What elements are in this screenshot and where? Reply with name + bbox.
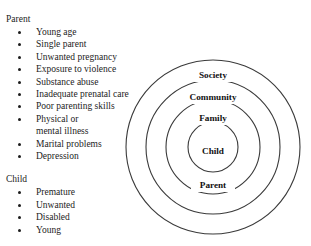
list-item: Inadequate prenatal care (6, 88, 156, 100)
risk-factor-lists: Parent Young age Single parent Unwanted … (6, 13, 156, 236)
ring-label-family: Family (199, 113, 227, 123)
list-item: Physical or mental illness (6, 113, 156, 138)
label-plate-child (195, 146, 231, 158)
list-item-label: Premature (36, 187, 75, 197)
risk-group-parent: Parent Young age Single parent Unwanted … (6, 13, 156, 162)
bullet-icon (18, 31, 21, 34)
bullet-icon (18, 68, 21, 71)
list-item: Unwanted pregnancy (6, 51, 156, 63)
list-item-label: Exposure to violence (36, 64, 116, 74)
group-heading-child: Child (6, 173, 156, 185)
ring-child (188, 122, 238, 172)
list-item-label: Unwanted pregnancy (36, 52, 117, 62)
risk-list-child: Premature Unwanted Disabled Young (6, 186, 156, 236)
label-plate-family (191, 113, 235, 125)
risk-list-parent: Young age Single parent Unwanted pregnan… (6, 26, 156, 162)
list-item-label: Unwanted (36, 200, 75, 210)
list-item: Premature (6, 186, 156, 198)
group-spacer (6, 162, 156, 173)
label-plate-society (190, 70, 236, 82)
label-plate-parent (191, 180, 235, 192)
bullet-icon (18, 56, 21, 59)
figure-canvas: Parent Young age Single parent Unwanted … (0, 0, 311, 246)
bullet-icon (18, 81, 21, 84)
bullet-icon (18, 43, 21, 46)
list-item: Marital problems (6, 138, 156, 150)
list-item-label: Physical or mental illness (36, 114, 89, 136)
bullet-icon (18, 155, 21, 158)
bullet-icon (18, 105, 21, 108)
list-item-label: Disabled (36, 212, 70, 222)
list-item: Young age (6, 26, 156, 38)
ring-label-child: Child (202, 146, 224, 156)
ring-family (166, 100, 260, 194)
list-item-label: Depression (36, 151, 79, 161)
bullet-icon (18, 118, 21, 121)
list-item: Unwanted (6, 199, 156, 211)
bullet-icon (18, 216, 21, 219)
list-item-label: Inadequate prenatal care (36, 89, 129, 99)
bullet-icon (18, 229, 21, 232)
list-item-label: Substance abuse (36, 77, 99, 87)
bullet-icon (18, 143, 21, 146)
ring-label-community: Community (190, 92, 237, 102)
list-item: Young (6, 224, 156, 236)
list-item-label: Single parent (36, 39, 86, 49)
list-item: Disabled (6, 211, 156, 223)
bullet-icon (18, 93, 21, 96)
list-item: Poor parenting skills (6, 100, 156, 112)
list-item: Depression (6, 150, 156, 162)
bullet-icon (18, 204, 21, 207)
list-item-label: Marital problems (36, 139, 102, 149)
ring-label-parent: Parent (200, 180, 227, 190)
list-item-label: Young age (36, 27, 76, 37)
ring-community (146, 80, 280, 214)
group-heading-parent: Parent (6, 13, 156, 25)
bullet-icon (18, 191, 21, 194)
list-item-label: Young (36, 225, 61, 235)
list-item: Single parent (6, 38, 156, 50)
label-plate-community (184, 92, 243, 104)
ring-label-society: Society (199, 70, 227, 80)
list-item: Exposure to violence (6, 63, 156, 75)
list-item-label: Poor parenting skills (36, 101, 115, 111)
risk-group-child: Child Premature Unwanted Disabled Young (6, 173, 156, 236)
list-item: Substance abuse (6, 76, 156, 88)
